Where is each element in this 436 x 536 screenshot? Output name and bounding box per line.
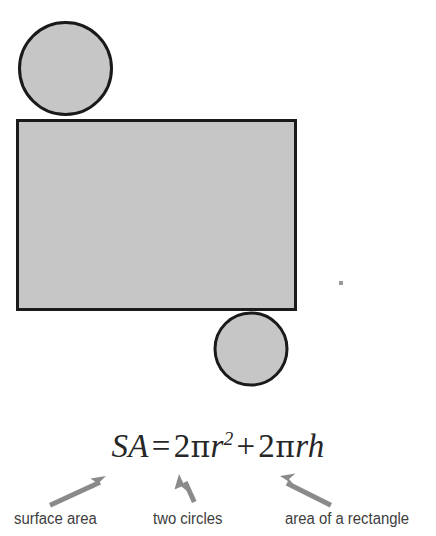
- caption-area-of-a-rectangle: area of a rectangle: [285, 510, 409, 528]
- formula-term2-variable-r: r: [295, 428, 308, 464]
- formula-term1-pi: π: [190, 429, 210, 464]
- rectangle-shape: [18, 121, 296, 310]
- top-circle-shape: [20, 23, 112, 115]
- caption-surface-area: surface area: [14, 510, 97, 528]
- formula-term1-variable: r: [210, 428, 223, 464]
- formula-plus: +: [233, 428, 258, 464]
- formula-term1-coefficient: 2: [174, 428, 191, 464]
- formula-lhs: SA: [111, 428, 148, 464]
- bottom-circle-shape: [215, 313, 287, 385]
- caption-two-circles: two circles: [153, 510, 222, 528]
- figure-canvas: SA=2πr2+2πrh surface area two circles ar…: [0, 0, 436, 536]
- formula-term2-variable-h: h: [308, 428, 325, 464]
- formula-term1-exponent: 2: [224, 428, 234, 449]
- formula-term2-pi: π: [275, 429, 295, 464]
- dot-artifact-icon: [339, 281, 343, 285]
- formula-equals: =: [149, 428, 174, 464]
- arrow-surface-area-icon: [49, 476, 106, 508]
- formula-term2-coefficient: 2: [258, 428, 275, 464]
- arrow-two-circles-icon: [175, 474, 197, 503]
- surface-area-formula: SA=2πr2+2πrh: [0, 428, 436, 465]
- arrow-area-of-a-rectangle-icon: [280, 474, 332, 508]
